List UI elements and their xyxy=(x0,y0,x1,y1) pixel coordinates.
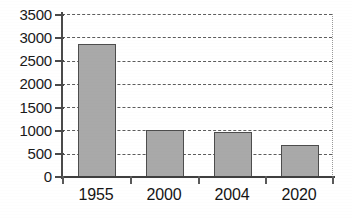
y-axis-tick-label: 2500 xyxy=(19,53,52,68)
y-tick-mark xyxy=(55,14,64,16)
x-axis-tick-label-2020: 2020 xyxy=(265,186,333,204)
y-tick-mark xyxy=(55,37,64,39)
y-axis-tick-label: 1000 xyxy=(19,123,52,138)
x-axis-tick-label-2004: 2004 xyxy=(198,186,266,204)
y-tick-mark xyxy=(55,153,64,155)
bar-2004 xyxy=(214,132,252,177)
y-tick-mark xyxy=(55,84,64,86)
bars-layer xyxy=(62,14,333,177)
bar-2000 xyxy=(146,130,184,177)
y-axis-tick-label: 2000 xyxy=(19,76,52,91)
y-tick-mark xyxy=(55,60,64,62)
y-tick-mark xyxy=(55,130,64,132)
x-tick-mark xyxy=(198,176,200,184)
x-tick-mark xyxy=(265,176,267,184)
x-axis-tick-label-1955: 1955 xyxy=(62,186,130,204)
bar-2020 xyxy=(281,145,319,177)
y-axis-tick-label: 3000 xyxy=(19,30,52,45)
x-axis-tick-labels: 1955 2000 2004 2020 xyxy=(0,186,352,212)
y-axis-tick-label: 1500 xyxy=(19,100,52,115)
bar-1955 xyxy=(78,44,116,177)
y-axis-tick-label: 500 xyxy=(28,146,52,161)
x-axis-tick-label-2000: 2000 xyxy=(130,186,198,204)
y-tick-mark xyxy=(55,107,64,109)
x-tick-mark xyxy=(332,176,334,184)
y-axis-tick-label: 3500 xyxy=(19,7,52,22)
bar-chart: 3500 3000 2500 2000 1500 1000 500 0 xyxy=(0,0,352,218)
x-axis-tick-marks xyxy=(0,176,352,186)
x-tick-mark xyxy=(130,176,132,184)
x-tick-mark xyxy=(62,176,64,184)
